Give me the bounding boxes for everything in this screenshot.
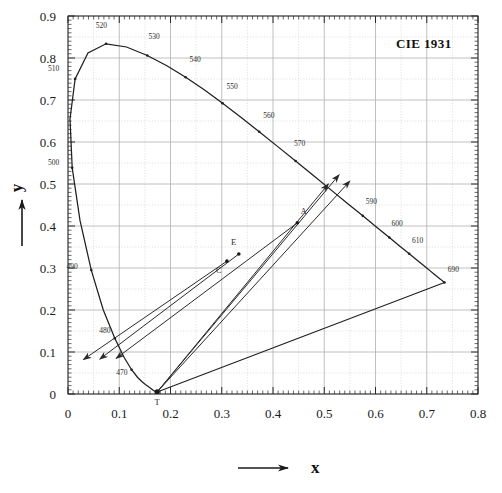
wavelength-label-550: 550 <box>226 82 238 91</box>
x-axis-label: x <box>311 458 320 477</box>
wavelength-label-570: 570 <box>294 139 306 148</box>
x-tick-label: 0.4 <box>265 406 282 421</box>
wavelength-label-480: 480 <box>99 326 111 335</box>
wavelength-label-520: 520 <box>96 21 108 30</box>
wavelength-tick <box>388 236 391 239</box>
wavelength-tick <box>74 78 77 81</box>
y-tick-label: 0.5 <box>40 177 56 192</box>
x-tick-label: 0.1 <box>111 406 127 421</box>
wavelength-label-610: 610 <box>412 236 424 245</box>
x-tick-label: 0.5 <box>316 406 332 421</box>
x-tick-label: 0.6 <box>367 406 384 421</box>
wavelength-label-510: 510 <box>48 64 60 73</box>
point-label-A: A <box>300 206 307 216</box>
wavelength-tick <box>113 337 116 340</box>
chart-title: CIE 1931 <box>396 36 452 51</box>
wavelength-label-490: 490 <box>66 262 78 271</box>
point-label-T: T <box>155 397 161 407</box>
wavelength-label-500: 500 <box>48 158 60 167</box>
y-tick-label: 0.3 <box>40 261 56 276</box>
x-tick-label: 0 <box>65 406 72 421</box>
cie-1931-chromaticity-diagram: 00.10.20.30.40.50.60.70.8 00.10.20.30.40… <box>0 0 502 493</box>
wavelength-label-540: 540 <box>189 55 201 64</box>
y-tick-label: 0.7 <box>40 93 57 108</box>
point-C <box>225 259 229 263</box>
x-tick-label: 0.3 <box>214 406 230 421</box>
wavelength-label-560: 560 <box>263 111 275 120</box>
y-tick-label: 0 <box>50 387 57 402</box>
point-label-C: C <box>216 265 222 275</box>
wavelength-label-600: 600 <box>391 219 403 228</box>
point-A <box>296 221 300 225</box>
wavelength-tick <box>146 54 149 57</box>
x-tick-label: 0.8 <box>470 406 486 421</box>
wavelength-tick <box>294 160 297 163</box>
wavelength-label-530: 530 <box>148 32 160 41</box>
wavelength-tick <box>90 269 93 272</box>
wavelength-label-470: 470 <box>116 368 128 377</box>
wavelength-label-590: 590 <box>366 197 378 206</box>
wavelength-tick <box>105 43 108 46</box>
y-tick-label: 0.6 <box>40 135 57 150</box>
point-E <box>237 252 241 256</box>
y-tick-label: 0.4 <box>40 219 57 234</box>
wavelength-tick <box>258 130 261 133</box>
wavelength-label-690: 690 <box>448 265 460 274</box>
x-tick-label: 0.7 <box>419 406 436 421</box>
x-tick-label: 0.2 <box>162 406 178 421</box>
wavelength-tick <box>443 281 446 284</box>
wavelength-tick <box>408 252 411 255</box>
y-tick-label: 0.1 <box>40 345 56 360</box>
wavelength-tick <box>130 368 133 371</box>
wavelength-tick <box>184 76 187 79</box>
point-T <box>155 389 160 394</box>
y-axis-label: y <box>7 183 26 192</box>
point-label-E: E <box>231 237 236 247</box>
y-tick-label: 0.2 <box>40 303 56 318</box>
wavelength-tick <box>71 167 74 170</box>
wavelength-tick <box>361 215 364 218</box>
y-tick-label: 0.9 <box>40 9 56 24</box>
wavelength-tick <box>221 102 224 105</box>
